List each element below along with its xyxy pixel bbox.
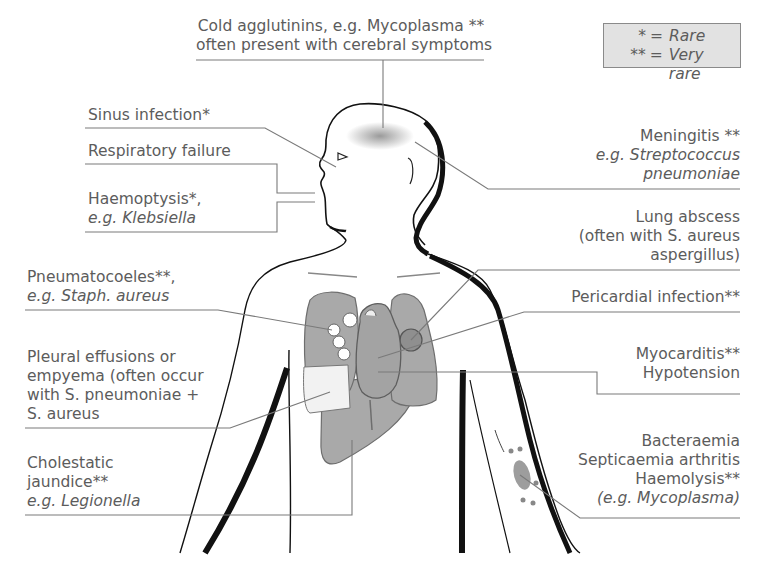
legend-symbol: ** <box>616 46 650 84</box>
label-respiratory-failure: Respiratory failure <box>88 142 231 161</box>
label-meningitis: Meningitis ** e.g. Streptococcus pneumon… <box>596 127 740 184</box>
arm-lesion <box>510 458 533 491</box>
pleural-effusion <box>304 365 350 413</box>
legend-box: * = Rare ** = Very rare <box>603 23 741 68</box>
legend-row-rare: * = Rare <box>616 27 740 46</box>
label-pneumatocoeles: Pneumatocoeles**, e.g. Staph. aureus <box>27 268 175 306</box>
label-cold-agglutinins: Cold agglutinins, e.g. Mycoplasma ** oft… <box>196 17 486 55</box>
pneumatocoele <box>333 336 345 348</box>
label-pleural-effusions: Pleural effusions or empyema (often occu… <box>27 348 204 424</box>
pneumatocoele <box>338 348 350 360</box>
brain-region <box>346 122 414 150</box>
head-shadow <box>416 122 443 254</box>
label-sinus-infection: Sinus infection* <box>88 106 210 125</box>
label-myocarditis: Myocarditis** Hypotension <box>636 345 740 383</box>
legend-meaning: Rare <box>669 27 705 46</box>
label-cholestatic-jaundice: Cholestatic jaundice** e.g. Legionella <box>27 454 140 511</box>
eye-icon <box>338 153 347 160</box>
label-haemoptysis: Haemoptysis*, e.g. Klebsiella <box>88 190 202 228</box>
ear-icon <box>408 158 413 184</box>
pneumatocoele <box>343 313 357 327</box>
legend-row-very-rare: ** = Very rare <box>616 46 740 84</box>
label-pericardial-infection: Pericardial infection** <box>571 288 740 307</box>
legend-symbol: * <box>616 27 650 46</box>
torso-shadow-left <box>205 368 287 553</box>
label-lung-abscess: Lung abscess (often with S. aureus asper… <box>579 208 740 265</box>
extrapulmonary-manifestations-diagram: * = Rare ** = Very rare Cold agglutinins… <box>0 0 762 563</box>
legend-meaning: Very rare <box>669 46 740 84</box>
torso-shadow-right <box>430 256 570 553</box>
label-bacteraemia: Bacteraemia Septicaemia arthritis Haemol… <box>578 432 740 508</box>
